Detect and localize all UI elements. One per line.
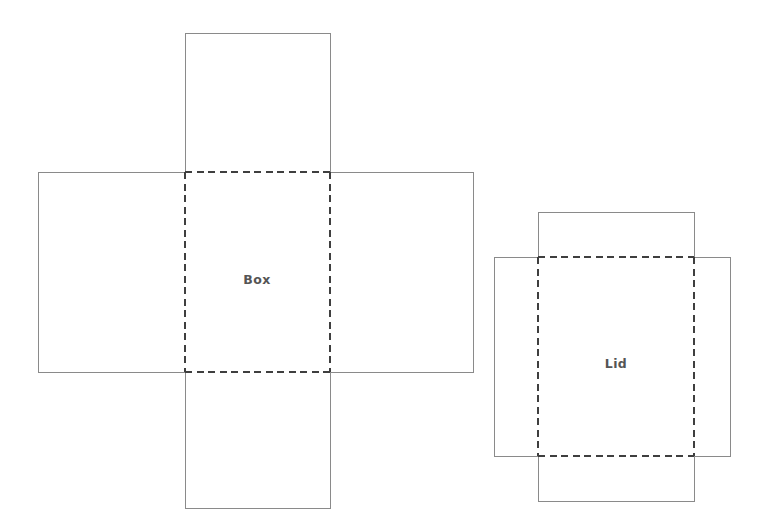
lid-net-label: Lid [605,356,627,371]
nets-svg: Box Lid [0,0,769,526]
box-net-label: Box [243,272,270,287]
drawing-canvas: Box Lid [0,0,769,526]
